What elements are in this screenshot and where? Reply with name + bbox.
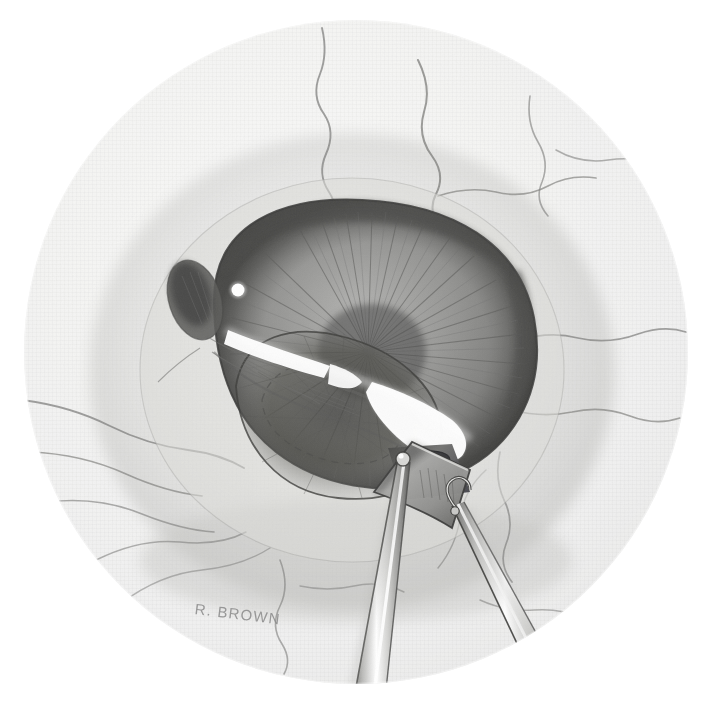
- ophthalmic-illustration: [0, 0, 714, 709]
- illustration-root: R. BROWN: [0, 0, 714, 709]
